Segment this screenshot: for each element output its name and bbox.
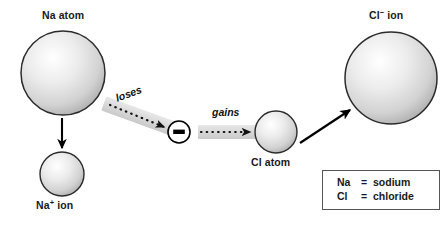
legend-table: Na = sodium Cl = chloride <box>337 176 417 204</box>
gains-label: gains <box>212 106 239 118</box>
na-ion-label: Na+ ion <box>36 199 73 211</box>
cl-ion-label: Cl− ion <box>369 9 403 21</box>
legend-name: chloride <box>373 190 417 204</box>
legend-symbol: Na <box>337 176 358 190</box>
cl-ion-label-prefix: Cl <box>369 9 380 21</box>
arrow-cl-to-cl-ion <box>300 110 350 143</box>
cl-ion-label-suffix: ion <box>384 9 403 21</box>
na-atom-label: Na atom <box>42 9 84 21</box>
na-ion-label-prefix: Na <box>36 199 50 211</box>
legend-equals: = <box>358 190 373 204</box>
legend-symbol: Cl <box>337 190 358 204</box>
legend-equals: = <box>358 176 373 190</box>
cl-atom-label: Cl atom <box>251 156 290 168</box>
na-ion-sphere <box>40 152 84 196</box>
na-atom-sphere <box>21 31 105 115</box>
cl-atom-sphere <box>255 111 297 153</box>
ion-formation-diagram: Na atom Na+ ion Cl atom Cl− ion loses ga… <box>0 0 448 229</box>
cl-ion-sphere <box>345 32 437 124</box>
electron-icon <box>168 121 190 143</box>
legend-row: Na = sodium <box>337 176 417 190</box>
legend-row: Cl = chloride <box>337 190 417 204</box>
legend-box: Na = sodium Cl = chloride <box>322 170 440 210</box>
na-ion-label-suffix: ion <box>54 199 73 211</box>
legend-name: sodium <box>373 176 417 190</box>
